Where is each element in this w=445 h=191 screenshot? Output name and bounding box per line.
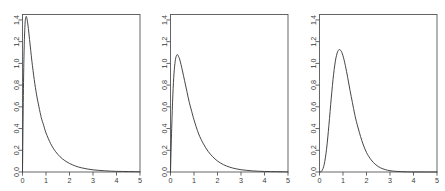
y-tick-label: 0.0 [308, 167, 317, 177]
plot-frame [171, 15, 288, 172]
y-tick-label: 1.0 [308, 58, 317, 68]
x-tick-label: 1 [341, 176, 345, 185]
y-axis: 0.00.20.40.60.81.01.21.4 [12, 15, 23, 177]
x-tick-label: 5 [286, 176, 290, 185]
density-plot-1: 0123450.00.20.40.60.81.01.21.4 [0, 0, 148, 191]
y-tick-label: 1.2 [160, 37, 169, 47]
y-tick-label: 0.6 [12, 102, 21, 112]
y-tick-label: 1.4 [160, 15, 169, 25]
x-tick-label: 5 [138, 176, 142, 185]
density-panel-3: 0123450.00.20.40.60.81.01.21.4 [297, 0, 445, 191]
density-panel-2: 0123450.00.20.40.60.81.01.21.4 [148, 0, 296, 191]
x-tick-label: 1 [192, 176, 196, 185]
y-tick-label: 0.6 [308, 102, 317, 112]
y-tick-label: 0.8 [308, 80, 317, 90]
y-axis: 0.00.20.40.60.81.01.21.4 [160, 15, 171, 177]
x-axis: 012345 [20, 172, 141, 185]
x-tick-label: 4 [411, 176, 415, 185]
y-tick-label: 1.2 [12, 37, 21, 47]
y-tick-label: 0.0 [12, 167, 21, 177]
x-tick-label: 1 [44, 176, 48, 185]
x-axis: 012345 [317, 172, 438, 185]
x-tick-label: 3 [388, 176, 392, 185]
y-tick-label: 0.8 [160, 80, 169, 90]
x-tick-label: 4 [114, 176, 118, 185]
x-axis: 012345 [169, 172, 290, 185]
x-tick-label: 3 [239, 176, 243, 185]
y-tick-label: 1.0 [160, 58, 169, 68]
y-tick-label: 0.4 [12, 124, 21, 134]
y-tick-label: 1.0 [12, 58, 21, 68]
plot-frame [319, 15, 436, 172]
y-tick-label: 0.2 [160, 145, 169, 155]
x-tick-label: 0 [317, 176, 321, 185]
y-tick-label: 1.4 [308, 15, 317, 25]
x-tick-label: 2 [364, 176, 368, 185]
density-plot-3: 0123450.00.20.40.60.81.01.21.4 [297, 0, 445, 191]
x-tick-label: 2 [67, 176, 71, 185]
x-tick-label: 5 [435, 176, 439, 185]
y-tick-label: 0.0 [160, 167, 169, 177]
y-tick-label: 1.2 [308, 37, 317, 47]
y-axis: 0.00.20.40.60.81.01.21.4 [308, 15, 319, 177]
x-tick-label: 4 [263, 176, 267, 185]
x-tick-label: 0 [20, 176, 24, 185]
multi-panel-density-figure: 0123450.00.20.40.60.81.01.21.4 0123450.0… [0, 0, 445, 191]
plot-frame [22, 15, 139, 172]
density-panel-1: 0123450.00.20.40.60.81.01.21.4 [0, 0, 148, 191]
x-tick-label: 2 [216, 176, 220, 185]
y-tick-label: 0.8 [12, 80, 21, 90]
y-tick-label: 0.6 [160, 102, 169, 112]
y-tick-label: 0.2 [308, 145, 317, 155]
x-tick-label: 3 [91, 176, 95, 185]
density-plot-2: 0123450.00.20.40.60.81.01.21.4 [148, 0, 296, 191]
density-curve [22, 16, 139, 172]
y-tick-label: 0.4 [160, 124, 169, 134]
y-tick-label: 0.2 [12, 145, 21, 155]
density-curve [319, 50, 436, 172]
density-curve [171, 55, 288, 172]
y-tick-label: 0.4 [308, 124, 317, 134]
y-tick-label: 1.4 [12, 15, 21, 25]
x-tick-label: 0 [169, 176, 173, 185]
